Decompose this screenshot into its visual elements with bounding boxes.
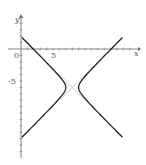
y-tick-label-neg5: -5: [8, 77, 16, 86]
axis-ticks: [20, 23, 130, 151]
y-axis-arrow-icon: [19, 14, 23, 18]
x-tick-label-5: 5: [51, 51, 56, 60]
x-axis-label: x: [134, 49, 139, 58]
hyperbola-chart: y x 0 5 -5: [0, 0, 146, 165]
y-axis-label: y: [14, 15, 20, 24]
asymptotes: [59, 75, 85, 101]
left-branch: [22, 38, 66, 138]
origin-label: 0: [14, 51, 19, 60]
right-branch: [79, 38, 123, 138]
